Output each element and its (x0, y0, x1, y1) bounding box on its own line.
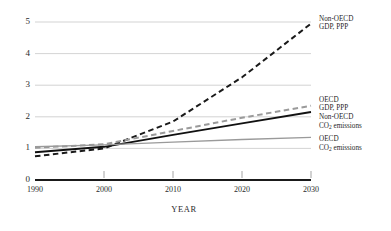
series-label-line2: GDP, PPP (319, 104, 348, 113)
x-tick-label: 2010 (153, 186, 193, 194)
x-axis-ticks (104, 171, 311, 178)
x-axis-title: YEAR (124, 205, 244, 214)
series-label-line2: CO2 emissions (319, 144, 362, 153)
data-series-group (35, 24, 311, 157)
y-tick-label: 5 (14, 17, 30, 26)
series-label-line2: CO2 emissions (319, 122, 362, 131)
x-tick-label: 2030 (291, 186, 331, 194)
series-label-line1: OECD (319, 135, 339, 143)
series-label-line2: GDP, PPP (319, 23, 353, 32)
y-tick-label: 4 (14, 49, 30, 58)
series-label-3: OECDCO2 emissions (319, 135, 362, 152)
series-line-0 (35, 24, 311, 157)
series-label-line1: OECD (319, 96, 339, 104)
chart-container: 012345 19902000201020202030 Non-OECDGDP,… (0, 0, 391, 231)
x-tick-label: 1990 (15, 186, 55, 194)
y-tick-label: 0 (14, 175, 30, 184)
y-tick-label: 2 (14, 112, 30, 121)
series-label-2: Non-OECDCO2 emissions (319, 113, 362, 130)
series-label-1: OECDGDP, PPP (319, 96, 348, 113)
series-label-0: Non-OECDGDP, PPP (319, 15, 353, 32)
y-tick-label: 1 (14, 143, 30, 152)
x-tick-label: 2000 (84, 186, 124, 194)
x-tick-label: 2020 (222, 186, 262, 194)
series-label-line1: Non-OECD (319, 113, 353, 121)
y-tick-label: 3 (14, 80, 30, 89)
series-label-line1: Non-OECD (319, 15, 353, 23)
gridlines (35, 22, 311, 148)
series-line-3 (35, 137, 311, 146)
